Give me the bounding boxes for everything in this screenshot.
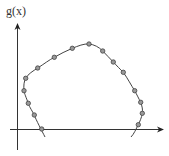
data-point-marker	[133, 89, 137, 93]
data-point-marker	[26, 101, 30, 105]
data-point-marker	[22, 89, 26, 93]
data-point-marker	[121, 70, 125, 74]
data-point-marker	[40, 127, 44, 131]
data-point-marker	[36, 66, 40, 70]
data-point-marker	[32, 113, 36, 117]
data-point-marker	[139, 100, 143, 104]
data-point-marker	[87, 42, 91, 46]
data-point-marker	[24, 76, 28, 80]
data-point-marker	[140, 111, 144, 115]
diagram-canvas	[0, 0, 169, 156]
data-point-marker	[101, 49, 105, 53]
data-point-marker	[52, 55, 56, 59]
curve-g	[24, 44, 143, 137]
data-markers	[22, 42, 145, 131]
data-point-marker	[111, 60, 115, 64]
data-point-marker	[136, 123, 140, 127]
data-point-marker	[70, 46, 74, 50]
